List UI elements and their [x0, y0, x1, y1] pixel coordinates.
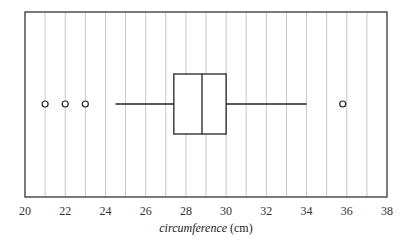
x-tick-label: 34	[301, 204, 313, 218]
x-axis-label: circumference (cm)	[159, 221, 252, 235]
x-tick-label: 20	[19, 204, 31, 218]
x-tick-label: 26	[140, 204, 152, 218]
iqr-box	[174, 74, 226, 134]
x-tick-label: 28	[180, 204, 192, 218]
x-tick-label: 36	[341, 204, 353, 218]
outlier-point	[82, 101, 88, 107]
x-tick-label: 24	[99, 204, 111, 218]
outlier-point	[340, 101, 346, 107]
x-tick-label: 22	[59, 204, 71, 218]
outlier-point	[62, 101, 68, 107]
boxplot-chart: 20222426283032343638circumference (cm)	[0, 0, 413, 240]
outlier-point	[42, 101, 48, 107]
x-tick-label: 30	[220, 204, 232, 218]
x-tick-label: 32	[260, 204, 272, 218]
x-tick-label: 38	[381, 204, 393, 218]
